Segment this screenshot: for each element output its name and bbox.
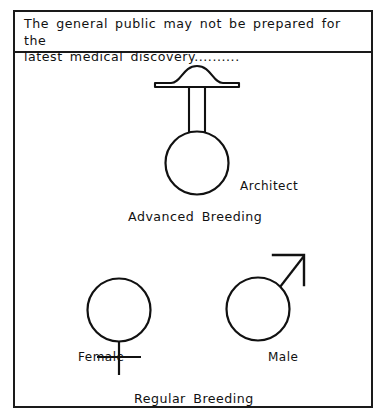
architect-circle [166, 132, 229, 195]
male-arrowhead-icon [273, 255, 304, 285]
regular-breeding-label: Regular Breeding [134, 391, 254, 406]
architect-hat-icon [155, 66, 239, 87]
male-symbol [227, 255, 305, 341]
architect-label: Architect [240, 179, 298, 193]
male-label: Male [268, 350, 298, 364]
female-label: Female [78, 350, 124, 364]
advanced-breeding-label: Advanced Breeding [128, 209, 262, 224]
female-circle [88, 279, 151, 342]
architect-symbol [155, 66, 239, 195]
caption-panel: The general public may not be prepared f… [15, 12, 371, 53]
drawing-area: Architect Advanced Breeding Female Male … [15, 53, 371, 408]
male-arrow-shaft [280, 256, 304, 287]
figures-illustration [15, 53, 371, 408]
cartoon-frame: The general public may not be prepared f… [13, 10, 373, 408]
